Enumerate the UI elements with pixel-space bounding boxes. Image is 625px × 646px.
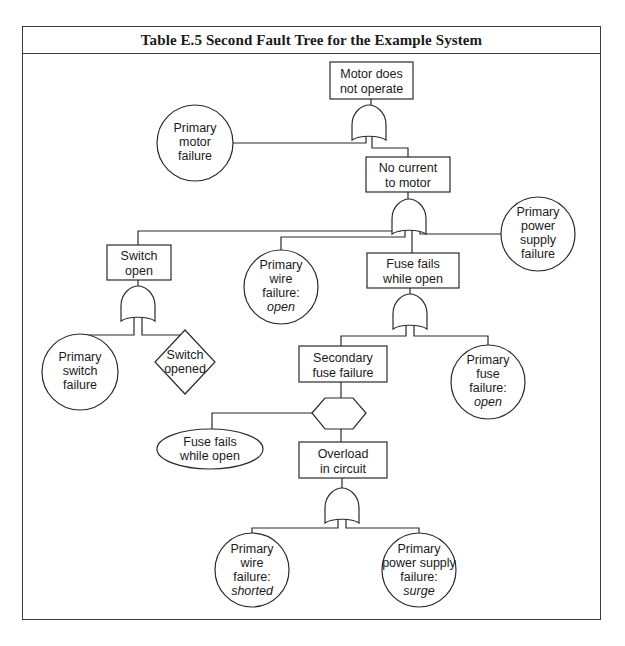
svg-text:fuse failure: fuse failure <box>312 366 373 380</box>
event-motor-does-not-operate: Motor does not operate <box>330 62 413 99</box>
svg-text:motor: motor <box>179 135 211 149</box>
event-no-current-to-motor: No current to motor <box>366 157 450 192</box>
svg-text:opened: opened <box>164 362 206 376</box>
basic-event-primary-fuse-failure-open: Primary fuse failure: open <box>451 345 525 419</box>
svg-text:while open: while open <box>179 449 240 463</box>
svg-text:Primary: Primary <box>259 258 303 272</box>
event-overload-in-circuit: Overload in circuit <box>299 442 387 478</box>
svg-text:in circuit: in circuit <box>320 462 366 476</box>
svg-text:power: power <box>521 219 555 233</box>
svg-text:power supply: power supply <box>382 556 456 570</box>
event-secondary-fuse-failure: Secondary fuse failure <box>299 346 387 382</box>
fault-tree-diagram: Motor does not operate No current to mot… <box>0 0 625 646</box>
svg-text:to motor: to motor <box>385 176 431 190</box>
basic-event-primary-wire-failure-open: Primary wire failure: open <box>244 250 318 324</box>
svg-text:Primary: Primary <box>516 205 560 219</box>
svg-text:failure:: failure: <box>233 570 271 584</box>
or-gate-overload <box>325 488 359 523</box>
svg-text:failure:: failure: <box>469 381 507 395</box>
svg-text:Switch: Switch <box>121 249 158 263</box>
svg-text:while open: while open <box>382 272 443 286</box>
undeveloped-event-switch-opened: Switch opened <box>155 330 215 394</box>
svg-text:fuse: fuse <box>476 367 500 381</box>
svg-text:Primary: Primary <box>466 353 510 367</box>
svg-text:failure: failure <box>178 149 212 163</box>
svg-text:not operate: not operate <box>340 82 403 96</box>
svg-text:No current: No current <box>379 161 438 175</box>
svg-text:Switch: Switch <box>167 348 204 362</box>
basic-event-primary-power-supply-failure-surge: Primary power supply failure: surge <box>382 533 457 607</box>
svg-text:wire: wire <box>240 556 264 570</box>
svg-text:failure: failure <box>63 378 97 392</box>
or-gate-switch <box>121 286 155 321</box>
svg-text:failure:: failure: <box>262 286 300 300</box>
svg-text:Primary: Primary <box>173 121 217 135</box>
svg-text:surge: surge <box>403 584 434 598</box>
or-gate-fuse <box>393 294 427 329</box>
svg-text:shorted: shorted <box>231 584 274 598</box>
basic-event-primary-power-supply-failure: Primary power supply failure <box>501 197 575 271</box>
svg-text:failure:: failure: <box>400 570 438 584</box>
svg-text:open: open <box>474 395 502 409</box>
svg-text:Secondary: Secondary <box>313 351 374 365</box>
svg-text:open: open <box>125 264 153 278</box>
svg-text:wire: wire <box>269 272 293 286</box>
svg-text:Fuse fails: Fuse fails <box>183 435 237 449</box>
conditioning-event-fuse-fails-while-open: Fuse fails while open <box>157 429 263 469</box>
svg-text:failure: failure <box>521 247 555 261</box>
svg-text:Motor does: Motor does <box>340 67 403 81</box>
svg-text:Fuse fails: Fuse fails <box>386 257 440 271</box>
event-fuse-fails-while-open: Fuse fails while open <box>367 253 459 288</box>
basic-event-primary-switch-failure: Primary switch failure <box>42 334 118 410</box>
basic-event-primary-motor-failure: Primary motor failure <box>157 105 233 181</box>
event-switch-open: Switch open <box>107 245 171 280</box>
or-gate-top <box>352 105 386 140</box>
inhibit-hexagon <box>312 398 366 429</box>
svg-text:switch: switch <box>63 364 98 378</box>
svg-text:Primary: Primary <box>58 350 102 364</box>
svg-text:supply: supply <box>520 233 557 247</box>
svg-text:open: open <box>267 300 295 314</box>
basic-event-primary-wire-failure-shorted: Primary wire failure: shorted <box>215 533 289 607</box>
svg-text:Primary: Primary <box>397 542 441 556</box>
or-gate-no-current <box>392 199 426 234</box>
svg-text:Overload: Overload <box>318 447 369 461</box>
svg-text:Primary: Primary <box>230 542 274 556</box>
